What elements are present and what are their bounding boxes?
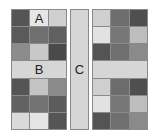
right-cell-r2-c3 xyxy=(130,27,147,43)
left-cell-r3-c3 xyxy=(49,44,66,60)
left-cell-r2-c2 xyxy=(30,27,47,43)
right-cell-r7-c1 xyxy=(93,113,110,129)
left-cell-r5-c3 xyxy=(49,79,66,95)
label-c: C xyxy=(75,62,84,77)
right-cell-r5-c3 xyxy=(130,79,147,95)
right-cell-r5-c2 xyxy=(111,79,128,95)
left-cell-r3-c1 xyxy=(12,44,29,60)
label-b: B xyxy=(35,62,44,77)
right-cell-r3-c3 xyxy=(130,44,147,60)
left-cell-r6-c1 xyxy=(12,96,29,112)
left-cell-r6-c2 xyxy=(30,96,47,112)
left-cell-r1-c3 xyxy=(49,10,66,26)
column-c: C xyxy=(70,9,89,130)
left-cell-r7-c1 xyxy=(12,113,29,129)
left-band-row: B xyxy=(12,61,66,77)
left-cell-r3-c2 xyxy=(30,44,47,60)
left-cell-r5-c1 xyxy=(12,79,29,95)
right-cell-r2-c1 xyxy=(93,27,110,43)
left-cell-r5-c2 xyxy=(30,79,47,95)
left-cell-r2-c3 xyxy=(49,27,66,43)
right-cell-r6-c3 xyxy=(130,96,147,112)
right-cell-r3-c1 xyxy=(93,44,110,60)
right-cell-r1-c1 xyxy=(93,10,110,26)
right-grid-block xyxy=(92,9,148,130)
right-band-row xyxy=(93,61,147,77)
left-cell-r1-c1 xyxy=(12,10,29,26)
right-cell-r5-c1 xyxy=(93,79,110,95)
left-cell-r2-c1 xyxy=(12,27,29,43)
right-cell-r7-c2 xyxy=(111,113,128,129)
left-grid: AB xyxy=(12,10,66,129)
left-grid-block: AB xyxy=(11,9,67,130)
right-cell-r6-c1 xyxy=(93,96,110,112)
right-cell-r6-c2 xyxy=(111,96,128,112)
left-cell-r6-c3 xyxy=(49,96,66,112)
left-cell-r7-c2 xyxy=(30,113,47,129)
left-cell-r7-c3 xyxy=(49,113,66,129)
right-cell-r3-c2 xyxy=(111,44,128,60)
right-grid xyxy=(93,10,147,129)
left-cell-r1-c2: A xyxy=(30,10,47,26)
right-cell-r1-c3 xyxy=(130,10,147,26)
right-cell-r7-c3 xyxy=(130,113,147,129)
label-a: A xyxy=(35,11,44,26)
right-cell-r1-c2 xyxy=(111,10,128,26)
right-cell-r2-c2 xyxy=(111,27,128,43)
